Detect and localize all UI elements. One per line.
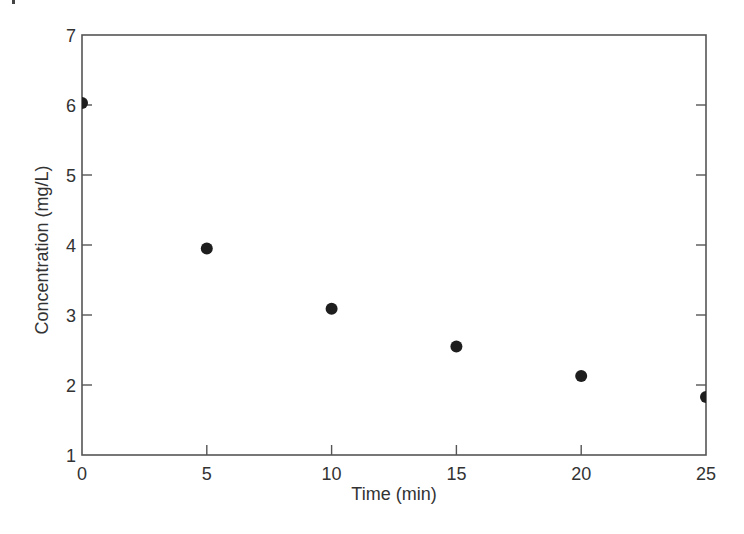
x-tick-label: 15	[446, 464, 466, 484]
y-tick-label: 4	[66, 236, 76, 256]
plot-border	[82, 35, 706, 455]
y-tick-label: 1	[66, 446, 76, 466]
data-point	[326, 303, 338, 315]
x-axis-tick-labels: 0510152025	[77, 464, 716, 484]
x-tick-label: 10	[322, 464, 342, 484]
plot-frame	[82, 35, 706, 455]
x-tick-label: 5	[202, 464, 212, 484]
x-tick-label: 25	[696, 464, 716, 484]
y-tick-label: 2	[66, 376, 76, 396]
data-point	[700, 391, 712, 403]
data-points	[76, 97, 712, 403]
scatter-chart: 0510152025 1234567 Time (min) Concentrat…	[0, 0, 744, 534]
y-tick-label: 3	[66, 306, 76, 326]
data-point	[450, 341, 462, 353]
y-tick-label: 6	[66, 96, 76, 116]
data-point	[201, 243, 213, 255]
x-axis-ticks	[207, 445, 581, 455]
data-point	[575, 370, 587, 382]
x-axis-title: Time (min)	[351, 484, 436, 504]
y-tick-label: 5	[66, 166, 76, 186]
x-tick-label: 20	[571, 464, 591, 484]
data-point	[76, 97, 88, 109]
y-axis-tick-labels: 1234567	[66, 26, 76, 466]
y-axis-title: Concentration (mg/L)	[32, 165, 52, 334]
y-axis-ticks	[82, 105, 706, 385]
y-tick-label: 7	[66, 26, 76, 46]
x-tick-label: 0	[77, 464, 87, 484]
